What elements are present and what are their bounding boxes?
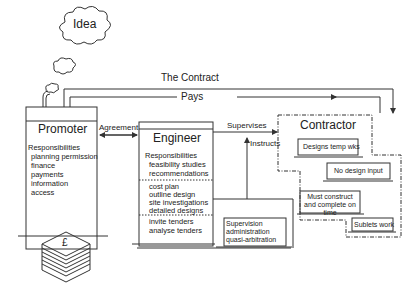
engineer-resp-item: invite tenders	[149, 217, 194, 226]
contractor-item: No design input	[334, 167, 383, 175]
pays-label: Pays	[181, 92, 203, 102]
promoter-resp-item: finance	[31, 161, 55, 170]
promoter-resp-item: access	[31, 188, 54, 197]
engineer-title: Engineer	[153, 132, 201, 144]
instructs-label: Instructs	[250, 140, 280, 148]
supervision-item: quasi-arbitration	[226, 236, 276, 244]
engineer-resp-item: recommendations	[149, 169, 209, 178]
promoter-title: Promoter	[38, 123, 87, 135]
pound-sign-icon: £	[62, 238, 68, 248]
contract-label: The Contract	[161, 73, 219, 83]
supervision-item: Supervision	[226, 220, 263, 228]
idea-label: Idea	[73, 18, 96, 30]
promoter-responsibilities-heading: Responsibilities	[28, 143, 80, 152]
engineer-resp-item: feasibility studies	[149, 160, 206, 169]
promoter-resp-item: information	[31, 179, 68, 188]
engineer-responsibilities-heading: Responsibilities	[145, 151, 197, 160]
engineer-resp-item: detailed designs	[149, 206, 203, 215]
contractor-item: Designs temp wks	[303, 143, 360, 151]
contractor-item: Must construct and complete on time	[302, 193, 358, 217]
contractor-title: Contractor	[300, 119, 356, 131]
promoter-resp-item: planning permission	[31, 152, 98, 161]
small-cloud-icon	[54, 58, 76, 74]
engineer-resp-item: analyse tenders	[149, 226, 202, 235]
contractor-item: Sublets work	[354, 221, 394, 229]
supervises-label: Supervises	[227, 122, 267, 130]
supervision-item: administration	[226, 228, 270, 236]
agreement-label: Agreement	[99, 124, 138, 132]
promoter-resp-item: payments	[31, 170, 64, 179]
